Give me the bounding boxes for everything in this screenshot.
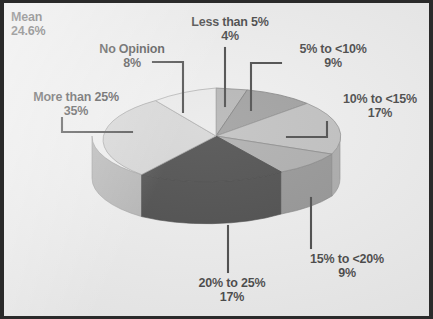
pie-label-20-to-25-title: 20% to 25%	[180, 276, 284, 290]
pie-label-15-to-20-value: 9%	[296, 266, 398, 280]
pie-label-less-than-5-value: 4%	[178, 29, 282, 43]
pie-label-no-opinion-value: 8%	[80, 56, 184, 70]
pie-label-10-to-15-value: 17%	[330, 106, 430, 120]
annotation-mean-title: Mean	[11, 10, 45, 24]
annotation-mean: Mean 24.6%	[11, 10, 45, 38]
pie-label-15-to-20: 15% to <20% 9%	[296, 252, 398, 280]
pie-chart-figure: Mean 24.6% No Opinion 8% More than 25% 3…	[0, 0, 433, 319]
pie-label-20-to-25-value: 17%	[180, 290, 284, 304]
pie-label-5-to-10-title: 5% to <10%	[283, 42, 383, 56]
pie-label-5-to-10: 5% to <10% 9%	[283, 42, 383, 70]
pie-label-10-to-15: 10% to <15% 17%	[330, 92, 430, 120]
annotation-mean-value: 24.6%	[11, 24, 45, 38]
pie-label-more-than-25-value: 35%	[10, 104, 142, 118]
pie-label-less-than-5-title: Less than 5%	[178, 15, 282, 29]
pie-label-more-than-25-title: More than 25%	[10, 90, 142, 104]
pie-label-no-opinion: No Opinion 8%	[80, 42, 184, 70]
pie-label-no-opinion-title: No Opinion	[80, 42, 184, 56]
pie-label-15-to-20-title: 15% to <20%	[296, 252, 398, 266]
pie-label-less-than-5: Less than 5% 4%	[178, 15, 282, 43]
pie-label-20-to-25: 20% to 25% 17%	[180, 276, 284, 304]
pie-label-more-than-25: More than 25% 35%	[10, 90, 142, 118]
pie-label-10-to-15-title: 10% to <15%	[330, 92, 430, 106]
pie-label-5-to-10-value: 9%	[283, 56, 383, 70]
